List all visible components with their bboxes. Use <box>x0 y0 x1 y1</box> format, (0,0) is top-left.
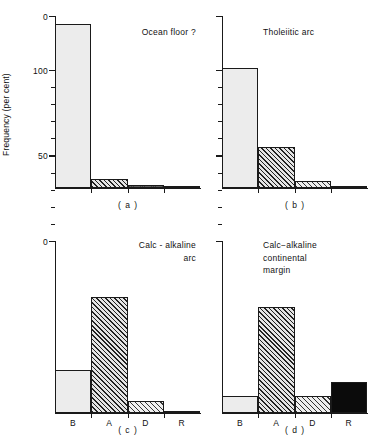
panel-d-y-tick-80 <box>218 104 222 105</box>
panel-a-bar-R <box>164 186 200 188</box>
panel-a-x-tick-R <box>164 188 165 193</box>
panel-d-y-tick-0 <box>216 241 222 242</box>
panel-a-x-tick-A <box>91 188 92 193</box>
panel-a-y-tick-0 <box>49 16 55 17</box>
panel-a-x-tick-D <box>128 188 129 193</box>
panel-b-y-tick-0 <box>216 16 222 17</box>
panel-b-x-tick-A <box>258 188 259 193</box>
panel-b-plot-area <box>222 17 367 188</box>
panel-d-y-tick-70 <box>218 121 222 122</box>
panel-d-y-axis <box>222 241 223 414</box>
panel-c-y-tick-label-50: 50 <box>38 152 48 161</box>
panel-c: Calc - alkaline arc 050100 BADR ( c ) <box>40 231 215 446</box>
panel-a-y-tick-label-0: 0 <box>43 13 48 22</box>
panel-a-bar-B <box>55 24 91 188</box>
panel-d-y-tick-100 <box>216 70 222 71</box>
panel-a-bar-D <box>128 185 164 188</box>
panel-d-y-tick-30 <box>218 190 222 191</box>
panel-a: Ocean floor ? 050100 ( a ) <box>40 6 215 221</box>
panel-c-y-tick-10 <box>51 224 55 225</box>
panel-c-bar-B <box>55 370 91 413</box>
panel-d-bar-A <box>258 307 294 413</box>
panel-b-bar-B <box>222 68 258 188</box>
panel-c-y-tick-60 <box>51 138 55 139</box>
panel-b-caption: ( b ) <box>222 200 368 210</box>
panel-c-y-tick-20 <box>51 207 55 208</box>
panel-d-plot-area: BADR <box>222 242 367 413</box>
panel-b-bar-R <box>331 186 367 188</box>
panel-c-y-tick-0 <box>49 241 55 242</box>
panel-b: Tholeiitic arc ( b ) <box>207 6 371 221</box>
panel-b-x-tick-R <box>331 188 332 193</box>
y-axis-label: Frequency (per cent) <box>1 6 11 156</box>
panel-d-y-tick-20 <box>218 207 222 208</box>
panel-d-bar-R <box>331 382 367 413</box>
panel-c-bar-D <box>128 401 164 413</box>
panel-c-y-tick-30 <box>51 190 55 191</box>
panel-c-plot-area: 050100 BADR <box>55 242 200 413</box>
panel-d-y-tick-10 <box>218 224 222 225</box>
panel-d-y-tick-50 <box>216 155 222 156</box>
panel-c-y-tick-100 <box>49 70 55 71</box>
panel-c-y-tick-40 <box>51 173 55 174</box>
panel-d-y-tick-90 <box>218 87 222 88</box>
panel-b-x-tick-D <box>295 188 296 193</box>
panel-d-bar-B <box>222 396 258 413</box>
panel-d-caption: ( d ) <box>222 425 368 435</box>
panel-d: Calc−alkaline continental margin BADR ( … <box>207 231 371 446</box>
panel-c-y-tick-90 <box>51 87 55 88</box>
panel-b-bar-D <box>295 181 331 188</box>
panel-d-bar-D <box>295 396 331 413</box>
panel-c-bar-R <box>164 411 200 413</box>
panel-b-bar-A <box>258 147 294 188</box>
panel-c-y-tick-label-0: 0 <box>43 238 48 247</box>
panel-d-y-tick-40 <box>218 173 222 174</box>
panel-a-caption: ( a ) <box>55 200 201 210</box>
panel-c-bar-A <box>91 297 127 413</box>
panel-a-bar-A <box>91 179 127 188</box>
panel-c-caption: ( c ) <box>55 425 201 435</box>
panel-c-y-tick-70 <box>51 121 55 122</box>
panel-d-y-tick-60 <box>218 138 222 139</box>
panel-a-plot-area: 050100 <box>55 17 200 188</box>
figure-bar-chart-grid: Frequency (per cent) Ocean floor ? 05010… <box>0 0 371 446</box>
panel-c-y-tick-50 <box>49 155 55 156</box>
panel-c-y-tick-80 <box>51 104 55 105</box>
panel-c-y-tick-label-100: 100 <box>33 67 48 76</box>
